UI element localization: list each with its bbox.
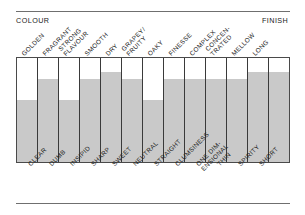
top-category-label: LONG — [251, 38, 270, 57]
bottom-divider-rule — [16, 203, 290, 204]
top-category-label: OAKY — [146, 38, 165, 57]
top-divider-rule — [16, 11, 290, 12]
bar-cell[interactable] — [227, 58, 248, 162]
bar-cell[interactable] — [17, 58, 38, 162]
axis-label-finish: FINISH — [262, 16, 288, 25]
bar-fill — [17, 100, 37, 162]
bar-fill — [227, 79, 247, 162]
top-category-label: DRY — [104, 42, 119, 57]
bar-cell[interactable] — [59, 58, 80, 162]
axis-label-colour: COLOUR — [16, 16, 49, 25]
